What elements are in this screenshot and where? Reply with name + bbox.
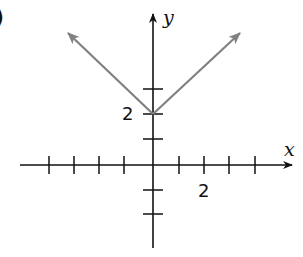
x-tick-label-2: 2 (198, 180, 209, 201)
y-axis-label: y (163, 6, 174, 28)
y-tick-label-2: 2 (122, 103, 133, 124)
x-axis-label: x (284, 138, 295, 160)
coordinate-plot (0, 0, 303, 257)
abs-value-graph (68, 33, 240, 114)
